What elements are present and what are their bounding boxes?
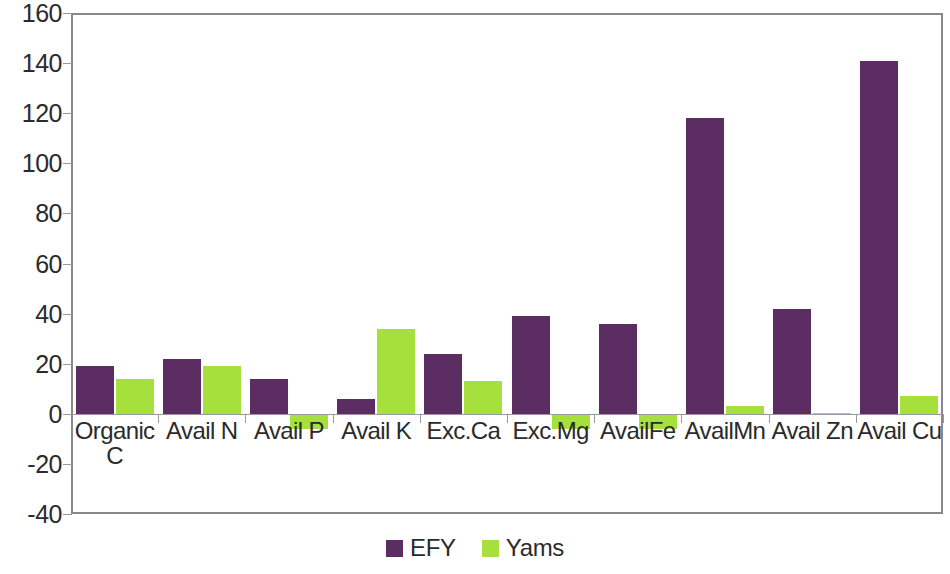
bar-yams xyxy=(377,329,415,414)
bar-efy xyxy=(250,379,288,414)
y-axis-tick-mark xyxy=(63,163,72,164)
y-axis-tick-label: 120 xyxy=(22,101,62,126)
x-axis-tick-mark xyxy=(943,414,944,423)
bar-efy xyxy=(599,324,637,414)
bar-efy xyxy=(163,359,201,414)
x-axis-category-label: Exc.Mg xyxy=(507,418,594,443)
x-axis-category-label: Avail N xyxy=(158,418,245,443)
bar-efy xyxy=(512,316,550,414)
bar-yams xyxy=(116,379,154,414)
y-axis-tick-mark xyxy=(63,113,72,114)
bar-efy xyxy=(686,118,724,414)
y-axis-tick-label: 100 xyxy=(22,151,62,176)
bar-yams xyxy=(726,406,764,414)
x-axis-tick-mark xyxy=(333,414,334,423)
x-axis-category-label: Exc.Ca xyxy=(420,418,507,443)
bar-yams xyxy=(203,366,241,414)
y-axis-tick-label: 0 xyxy=(49,401,62,426)
bar-chart: 160140120100806040200-20-40 Organic CAva… xyxy=(0,0,950,574)
y-axis-tick-mark xyxy=(63,264,72,265)
x-axis-tick-mark xyxy=(769,414,770,423)
legend: EFYYams xyxy=(0,536,950,560)
x-axis-tick-mark xyxy=(594,414,595,423)
y-axis-tick-label: -40 xyxy=(27,502,62,527)
bar-yams xyxy=(464,381,502,414)
bar-yams xyxy=(900,396,938,414)
legend-label: EFY xyxy=(410,536,456,560)
y-axis-tick-label: 80 xyxy=(35,201,62,226)
y-axis-tick-label: 140 xyxy=(22,51,62,76)
legend-square-swatch xyxy=(482,540,499,557)
y-axis-tick-label: 20 xyxy=(35,351,62,376)
bar-efy xyxy=(76,366,114,414)
x-axis-category-label: Avail K xyxy=(333,418,420,443)
x-axis-tick-mark xyxy=(158,414,159,423)
y-axis-tick-label: 60 xyxy=(35,251,62,276)
bar-efy xyxy=(337,399,375,414)
y-axis: 160140120100806040200-20-40 xyxy=(0,0,62,574)
y-axis-tick-mark xyxy=(63,464,72,465)
y-axis-tick-mark xyxy=(63,213,72,214)
y-axis-tick-mark xyxy=(63,63,72,64)
x-axis-category-label: AvailFe xyxy=(594,418,681,443)
x-axis-tick-mark xyxy=(507,414,508,423)
x-axis-category-label: AvailMn xyxy=(681,418,768,443)
legend-item: Yams xyxy=(482,536,564,560)
y-axis-tick-mark xyxy=(63,364,72,365)
bar-efy xyxy=(860,61,898,414)
y-axis-tick-mark xyxy=(63,13,72,14)
x-axis-category-label: Avail Cu xyxy=(856,418,943,443)
x-axis-tick-mark xyxy=(420,414,421,423)
y-axis-tick-mark xyxy=(63,314,72,315)
legend-label: Yams xyxy=(506,536,564,560)
y-axis-tick-label: 40 xyxy=(35,301,62,326)
bar-efy xyxy=(773,309,811,414)
legend-item: EFY xyxy=(386,536,456,560)
x-axis-category-label: Avail Zn xyxy=(769,418,856,443)
bar-efy xyxy=(424,354,462,414)
y-axis-tick-mark xyxy=(63,514,72,515)
x-axis-tick-mark xyxy=(245,414,246,423)
legend-square-swatch xyxy=(386,540,403,557)
y-axis-tick-label: -20 xyxy=(27,451,62,476)
x-axis-category-label: Organic C xyxy=(71,418,158,468)
y-axis-tick-label: 160 xyxy=(22,1,62,26)
x-axis-tick-mark xyxy=(681,414,682,423)
x-axis-tick-mark xyxy=(856,414,857,423)
x-axis-category-label: Avail P xyxy=(245,418,332,443)
x-axis: Organic CAvail NAvail PAvail KExc.CaExc.… xyxy=(71,418,943,488)
